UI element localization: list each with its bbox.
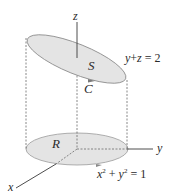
plane-eq-var-z: z [137, 51, 142, 65]
base-region-r-label: R [52, 137, 60, 150]
curve-c-label: C [84, 82, 93, 95]
cyl-eq-plus: + [109, 167, 116, 181]
y-axis-label: y [157, 142, 162, 154]
plane-eq-rhs: 2 [155, 51, 161, 65]
plane-equation: y+z = 2 [125, 52, 161, 64]
x-axis-label: x [8, 181, 13, 193]
cyl-eq-exp-y: 2 [124, 167, 128, 175]
diagram-canvas [0, 0, 176, 194]
z-axis-label: z [73, 10, 78, 22]
surface-s-ellipse [22, 25, 132, 93]
x-axis [16, 164, 56, 188]
cylinder-equation: x2 + y2 = 1 [97, 168, 146, 180]
cyl-eq-rhs: 1 [140, 167, 146, 181]
cyl-eq-exp-x: 2 [102, 167, 106, 175]
cyl-eq-equals: = [130, 167, 137, 181]
surface-s-label: S [88, 59, 95, 72]
plane-eq-equals: = [145, 51, 152, 65]
